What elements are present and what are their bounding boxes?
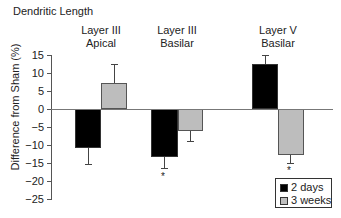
y-tick [47, 73, 51, 74]
error-bar-cap [161, 168, 168, 169]
error-bar-cap [111, 64, 118, 65]
significance-marker: * [161, 172, 165, 182]
error-bar [190, 130, 191, 141]
category-label-line: Basilar [243, 37, 313, 50]
y-tick-label: 15 [14, 50, 44, 61]
bar-2days-layer5-basilar [252, 64, 278, 109]
y-tick [47, 181, 51, 182]
error-bar [290, 155, 291, 163]
y-tick-label: 0 [14, 104, 44, 115]
legend-item-3weeks: 3 weeks [280, 194, 331, 206]
bar-2days-layer3-basilar [151, 109, 178, 157]
y-tick-label: −5 [14, 122, 44, 133]
error-bar-cap [85, 164, 92, 165]
y-tick [47, 145, 51, 146]
error-bar-cap [287, 163, 294, 164]
bar-3weeks-layer3-apical [101, 83, 127, 109]
category-label-line: Layer III [142, 24, 212, 37]
legend-item-2days: 2 days [280, 181, 323, 193]
legend-swatch-black [280, 184, 288, 192]
y-tick-label: −10 [14, 140, 44, 151]
zero-baseline [51, 109, 333, 110]
y-tick [47, 91, 51, 92]
legend-label: 3 weeks [291, 194, 331, 206]
y-tick-label: 5 [14, 86, 44, 97]
legend-label: 2 days [291, 181, 323, 193]
y-tick-label: −20 [14, 176, 44, 187]
category-label-layer5-basilar: Layer V Basilar [243, 24, 313, 50]
bar-3weeks-layer5-basilar [278, 109, 304, 155]
category-label-line: Layer V [243, 24, 313, 37]
chart-title: Dendritic Length [13, 5, 93, 17]
error-bar [164, 156, 165, 168]
legend-swatch-gray [280, 197, 288, 205]
category-label-line: Basilar [142, 37, 212, 50]
legend: 2 days 3 weeks [275, 178, 332, 208]
y-tick [47, 163, 51, 164]
y-tick [47, 55, 51, 56]
y-tick-label: −25 [14, 194, 44, 205]
significance-marker: * [287, 166, 291, 176]
error-bar [88, 148, 89, 164]
category-label-line: Apical [66, 37, 136, 50]
y-tick [47, 127, 51, 128]
error-bar-cap [187, 141, 194, 142]
error-bar [114, 64, 115, 83]
category-label-layer3-basilar: Layer III Basilar [142, 24, 212, 50]
y-tick-label: 10 [14, 68, 44, 79]
y-tick [47, 199, 51, 200]
bar-3weeks-layer3-basilar [178, 109, 203, 131]
y-axis [51, 55, 52, 200]
category-label-line: Layer III [66, 24, 136, 37]
error-bar-cap [262, 55, 269, 56]
bar-2days-layer3-apical [75, 109, 101, 148]
category-label-layer3-apical: Layer III Apical [66, 24, 136, 50]
y-tick-label: −15 [14, 158, 44, 169]
